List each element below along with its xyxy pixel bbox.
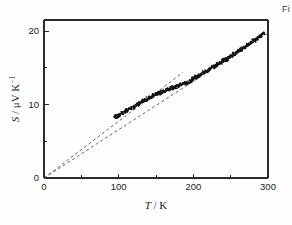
y-tick-label: 20 [28,25,39,36]
data-point [114,116,116,118]
data-point [216,62,218,64]
data-point [221,63,223,65]
data-point [122,113,124,115]
data-point [150,97,152,99]
data-point [231,55,233,57]
data-point [256,37,258,39]
y-axis-unit: μV K [9,84,21,108]
data-point [247,44,249,46]
data-point [131,108,133,110]
figure-root: 010020030001020 T / K S / μV K−1 Fi [0,0,292,225]
caption-fragment: Fi [282,4,290,14]
data-point [235,52,237,54]
x-tick-label: 200 [185,181,201,192]
y-tick-label: 10 [28,99,39,110]
data-point [172,89,174,91]
x-tick-label: 300 [260,181,276,192]
data-point [171,87,173,89]
data-point [263,32,265,34]
data-point [171,85,173,87]
x-tick-label: 100 [111,181,127,192]
data-point [187,82,189,84]
data-point [120,114,122,116]
data-point [227,60,229,62]
data-point [233,54,235,56]
data-point [127,110,129,112]
x-tick-label: 0 [41,181,46,192]
data-point [261,36,262,37]
y-axis-unit-exponent: −1 [8,76,17,84]
data-point [146,96,148,98]
data-point [202,73,204,75]
data-point [208,70,210,72]
data-point [153,95,154,96]
x-axis-unit: K [159,199,167,211]
data-point [233,52,235,54]
y-tick-label: 0 [34,172,39,183]
data-point [165,91,167,93]
data-point [255,41,257,43]
scatter-plot: 010020030001020 T / K S / μV K−1 [0,0,292,225]
x-axis-title: T / K [145,199,168,211]
data-point [139,103,141,105]
data-point [169,89,171,91]
